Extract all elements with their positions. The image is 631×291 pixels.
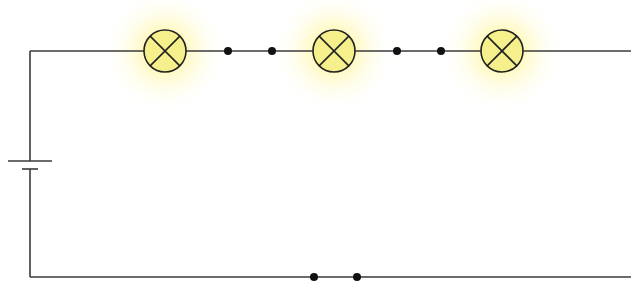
- terminal-dot: [353, 273, 361, 281]
- lamp-icon: [313, 30, 355, 72]
- lamp-icon: [481, 30, 523, 72]
- lamp-icon: [144, 30, 186, 72]
- terminal-dot: [393, 47, 401, 55]
- terminal-dot: [310, 273, 318, 281]
- series-circuit-diagram: [0, 0, 631, 291]
- terminal-dot: [268, 47, 276, 55]
- terminal-dot: [437, 47, 445, 55]
- terminal-dot: [224, 47, 232, 55]
- battery-cell-icon: [8, 161, 52, 169]
